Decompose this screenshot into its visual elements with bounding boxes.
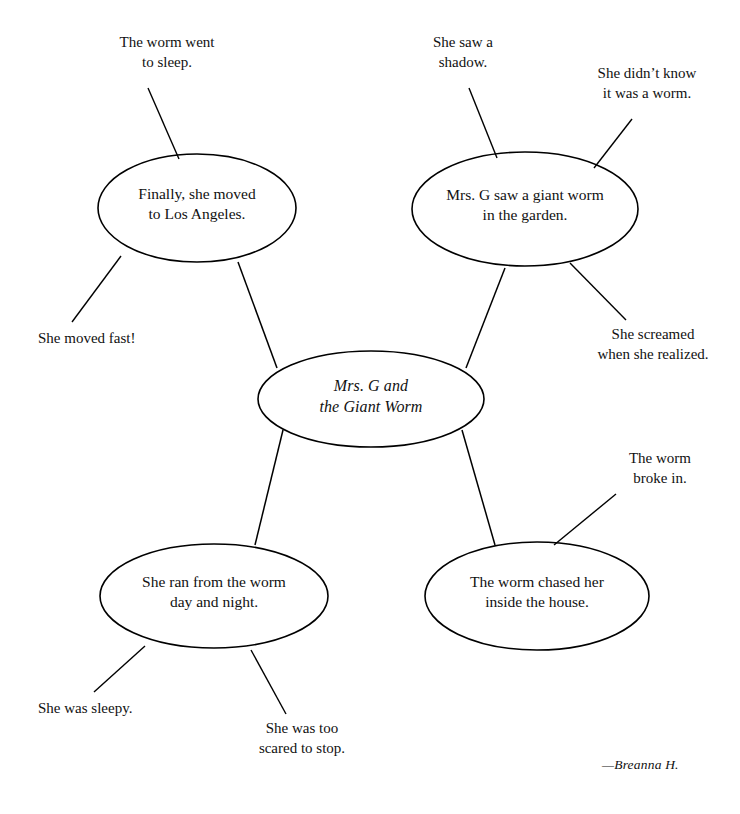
spoke-she-moved-fast bbox=[72, 256, 121, 322]
story-web-canvas: Finally, she moved to Los Angeles. Mrs. … bbox=[0, 0, 740, 814]
detail-label-didnt-know-worm: She didn’t know it was a worm. bbox=[564, 64, 730, 104]
connector-center-to-top-right bbox=[466, 268, 505, 368]
node-ellipse-bottom-left[interactable] bbox=[100, 544, 328, 648]
spoke-she-screamed bbox=[570, 263, 626, 320]
spoke-worm-went-to-sleep bbox=[148, 88, 179, 159]
connector-center-to-bottom-left bbox=[255, 430, 283, 545]
spoke-worm-broke-in bbox=[554, 494, 616, 545]
spoke-too-scared-to-stop bbox=[251, 650, 286, 714]
detail-label-she-was-sleepy: She was sleepy. bbox=[38, 699, 218, 719]
detail-label-too-scared-to-stop: She was too scared to stop. bbox=[222, 719, 382, 759]
detail-label-she-screamed: She screamed when she realized. bbox=[572, 325, 734, 365]
spoke-didnt-know-worm bbox=[594, 119, 632, 168]
node-ellipse-top-right[interactable] bbox=[412, 152, 638, 266]
node-ellipse-bottom-right[interactable] bbox=[425, 542, 649, 650]
connector-center-to-bottom-right bbox=[462, 430, 495, 545]
connector-center-to-top-left bbox=[238, 262, 277, 368]
attribution: —Breanna H. bbox=[602, 757, 679, 773]
story-web-lines bbox=[0, 0, 740, 814]
detail-label-she-saw-a-shadow: She saw a shadow. bbox=[398, 33, 528, 73]
node-ellipse-top-left[interactable] bbox=[98, 154, 296, 262]
detail-label-worm-broke-in: The worm broke in. bbox=[596, 449, 724, 489]
detail-label-worm-went-to-sleep: The worm went to sleep. bbox=[82, 33, 252, 73]
detail-label-she-moved-fast: She moved fast! bbox=[38, 329, 228, 349]
node-ellipse-center[interactable] bbox=[258, 351, 484, 447]
spoke-she-was-sleepy bbox=[94, 646, 145, 692]
spoke-she-saw-a-shadow bbox=[469, 88, 497, 158]
